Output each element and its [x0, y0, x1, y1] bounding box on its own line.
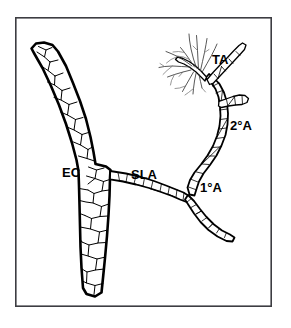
microvascular-network-diagram: EC SLA TA 2°A 1°A [0, 0, 291, 328]
label-sla: SLA [131, 167, 158, 182]
terminal-arteriole-feeder [176, 57, 207, 81]
label-ta: TA [212, 52, 229, 67]
label-ec: EC [62, 165, 81, 180]
figure-canvas: EC SLA TA 2°A 1°A [0, 0, 291, 328]
label-primary-arteriole: 1°A [200, 180, 222, 195]
label-secondary-arteriole: 2°A [230, 118, 252, 133]
primary-arteriole [185, 195, 235, 242]
primary-arteriole-wall [185, 195, 235, 242]
terminal-arteriole [159, 34, 217, 95]
